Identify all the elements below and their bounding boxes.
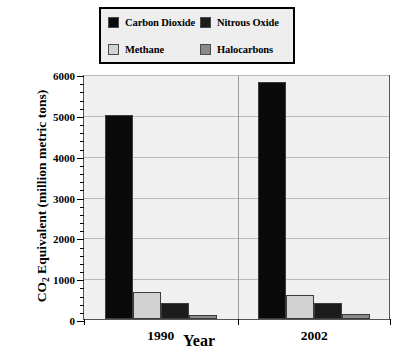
legend-swatch-methane xyxy=(108,44,119,55)
legend-label-nitrous-oxide: Nitrous Oxide xyxy=(217,17,279,28)
bar-group-1990 xyxy=(84,76,238,319)
legend-item-nitrous-oxide: Nitrous Oxide xyxy=(200,9,300,36)
y-axis-tick-label: 3000 xyxy=(53,193,75,205)
legend-swatch-nitrous-oxide xyxy=(200,17,211,28)
y-axis-tick-label: 5000 xyxy=(53,111,75,123)
y-axis-tick xyxy=(77,280,84,281)
y-axis-title-prefix: CO xyxy=(34,282,49,302)
bar-methane-1990[interactable] xyxy=(133,292,161,319)
y-axis-tick xyxy=(77,158,84,159)
y-axis-tick-label: 6000 xyxy=(53,70,75,82)
bar-carbon-dioxide-1990[interactable] xyxy=(105,115,133,319)
legend-swatch-carbon-dioxide xyxy=(108,17,119,28)
bar-group-2002 xyxy=(238,76,392,319)
legend-item-halocarbons: Halocarbons xyxy=(200,36,300,62)
y-axis-title-subscript: 2 xyxy=(41,277,51,282)
y-axis-tick-label: 1000 xyxy=(53,274,75,286)
x-axis-tick xyxy=(238,319,239,325)
bar-halocarbons-1990[interactable] xyxy=(189,315,217,319)
x-axis-title: Year xyxy=(0,332,398,350)
y-axis-tick xyxy=(77,76,84,77)
y-axis-tick-label: 0 xyxy=(70,315,76,327)
y-axis-title: CO2 Equivalent (million metric tons) xyxy=(34,66,50,326)
x-axis-tick xyxy=(84,319,85,325)
y-axis-tick xyxy=(77,321,84,322)
y-axis-tick xyxy=(77,117,84,118)
plot-area: 010002000300040005000600019902002 xyxy=(83,75,390,320)
y-axis-tick-label: 2000 xyxy=(53,233,75,245)
legend-swatch-halocarbons xyxy=(200,44,211,55)
y-axis-title-suffix: Equivalent (million metric tons) xyxy=(34,90,49,278)
bar-halocarbons-2002[interactable] xyxy=(342,314,370,320)
y-axis-tick xyxy=(77,199,84,200)
bar-methane-2002[interactable] xyxy=(286,295,314,320)
y-axis-tick xyxy=(77,239,84,240)
bar-nitrous-oxide-2002[interactable] xyxy=(314,303,342,319)
legend-label-halocarbons: Halocarbons xyxy=(217,44,273,55)
legend-label-carbon-dioxide: Carbon Dioxide xyxy=(125,17,195,28)
y-axis-tick-label: 4000 xyxy=(53,152,75,164)
legend-label-methane: Methane xyxy=(125,44,164,55)
legend-item-carbon-dioxide: Carbon Dioxide xyxy=(108,9,200,36)
bar-nitrous-oxide-1990[interactable] xyxy=(161,303,189,319)
bar-carbon-dioxide-2002[interactable] xyxy=(258,82,286,319)
x-axis-tick xyxy=(390,319,391,325)
chart-legend: Carbon Dioxide Nitrous Oxide Methane Hal… xyxy=(99,7,295,64)
legend-item-methane: Methane xyxy=(108,36,200,62)
